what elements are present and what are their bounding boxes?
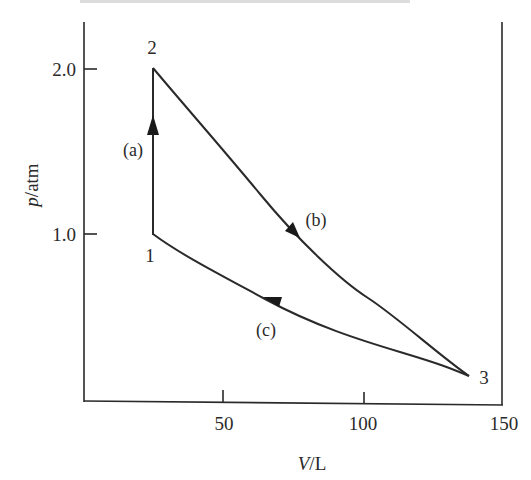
clipped-caption-fragment <box>80 0 410 3</box>
y-tick-label-1: 1.0 <box>52 224 76 245</box>
point-label-2: 2 <box>147 37 157 58</box>
x-tick-label-100: 100 <box>349 413 378 434</box>
point-label-1: 1 <box>145 245 155 266</box>
segment-c <box>153 234 469 376</box>
point-label-3: 3 <box>479 367 489 388</box>
arrow-up-icon <box>147 115 159 135</box>
x-axis <box>84 401 503 405</box>
pv-diagram: 2.0 1.0 50 100 150 V/L p/atm 2 1 3 (a) (… <box>0 0 531 480</box>
x-tick-label-150: 150 <box>490 413 519 434</box>
y-tick-label-2: 2.0 <box>52 59 76 80</box>
arrow-left-icon <box>263 297 282 307</box>
y-axis-title: p/atm <box>21 163 42 208</box>
segment-label-a: (a) <box>123 140 143 161</box>
x-tick-label-50: 50 <box>215 413 234 434</box>
x-axis-title: V/L <box>298 453 327 474</box>
segment-label-b: (b) <box>306 210 327 231</box>
segment-label-c: (c) <box>256 320 276 341</box>
